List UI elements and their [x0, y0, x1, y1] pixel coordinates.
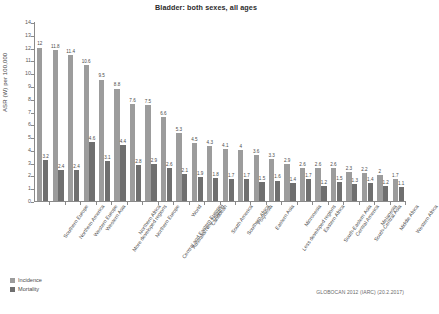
y-tick-mark [31, 113, 34, 114]
y-tick-mark [31, 74, 34, 75]
bar-value-label: 6.6 [160, 112, 166, 117]
bar-incidence: 9.5 [99, 80, 104, 201]
bar-value-label: 2.2 [361, 168, 367, 173]
y-tick-label: 10 [17, 71, 31, 76]
y-tick-mark [31, 202, 34, 203]
bar-incidence: 11.4 [68, 55, 73, 201]
bar-value-label: 2.8 [135, 160, 141, 165]
bar-mortality: 1.2 [383, 186, 388, 201]
bar-value-label: 3.1 [104, 156, 110, 161]
y-axis-label: ASR (W) per 100,000 [2, 53, 8, 112]
legend-swatch-mortality [10, 287, 15, 292]
bar-value-label: 4 [239, 145, 242, 150]
bar-value-label: 2.3 [346, 167, 352, 172]
legend-swatch-incidence [10, 278, 15, 283]
bar-group: 2.61.5 [329, 22, 344, 201]
chart-legend: Incidence Mortality [10, 276, 42, 294]
bar-value-label: 2.4 [58, 165, 64, 170]
bar-value-label: 1.8 [212, 173, 218, 178]
bar-value-label: 1.6 [274, 175, 280, 180]
bar-group: 7.52.9 [143, 22, 158, 201]
bar-mortality: 2.4 [74, 170, 79, 201]
bar-value-label: 3.2 [42, 155, 48, 160]
bar-mortality: 1.7 [229, 179, 234, 201]
y-tick-label: 0 [17, 199, 31, 204]
bar-mortality: 2.4 [58, 170, 63, 201]
bar-group: 3.31.6 [267, 22, 282, 201]
bar-group: 3.61.5 [251, 22, 266, 201]
y-tick-label: 3 [17, 161, 31, 166]
legend-item-incidence: Incidence [10, 276, 42, 285]
legend-label-mortality: Mortality [18, 287, 39, 293]
bar-value-label: 2.6 [315, 163, 321, 168]
bar-incidence: 7.6 [130, 104, 135, 201]
bar-mortality: 4.6 [89, 142, 94, 201]
y-tick-mark [31, 100, 34, 101]
bar-value-label: 1.1 [398, 182, 404, 187]
bar-incidence: 2.6 [331, 168, 336, 201]
bar-value-label: 7.5 [145, 100, 151, 105]
bar-mortality: 1.3 [352, 184, 357, 201]
bar-group: 123.2 [35, 22, 50, 201]
y-tick-label: 4 [17, 148, 31, 153]
y-tick-mark [31, 176, 34, 177]
bar-mortality: 1.4 [290, 183, 295, 201]
y-tick-mark [31, 49, 34, 50]
bar-value-label: 2.6 [299, 163, 305, 168]
bar-value-label: 8.8 [114, 83, 120, 88]
bar-value-label: 1.7 [305, 174, 311, 179]
bar-value-label: 3.6 [253, 150, 259, 155]
bar-value-label: 12 [37, 42, 42, 47]
y-tick-mark [31, 23, 34, 24]
bar-incidence: 8.8 [114, 89, 119, 202]
plot-area: 01234567891011121314 123.211.82.411.42.4… [34, 22, 406, 202]
bar-incidence: 6.6 [161, 117, 166, 201]
bar-value-label: 7.6 [129, 99, 135, 104]
bar-value-label: 1.7 [392, 174, 398, 179]
bar-group: 4.11.7 [221, 22, 236, 201]
bar-value-label: 2.6 [166, 163, 172, 168]
bar-value-label: 2.6 [330, 163, 336, 168]
x-axis-category-labels: Southern EuropeNorthern AmericaWestern E… [34, 204, 406, 266]
y-tick-label: 13 [17, 33, 31, 38]
y-tick-mark [31, 151, 34, 152]
y-tick-mark [31, 61, 34, 62]
bar-value-label: 2.4 [73, 165, 79, 170]
bar-value-label: 2.9 [151, 159, 157, 164]
x-axis-label: Western Africa [416, 204, 439, 235]
bar-value-label: 1.9 [197, 172, 203, 177]
bar-group: 2.61.2 [313, 22, 328, 201]
bar-incidence: 11.8 [53, 50, 58, 201]
bar-value-label: 2.1 [182, 169, 188, 174]
bar-value-label: 1.7 [228, 174, 234, 179]
bar-value-label: 1.2 [321, 181, 327, 186]
bar-value-label: 2.9 [284, 159, 290, 164]
y-tick-mark [31, 138, 34, 139]
bar-value-label: 9.5 [98, 74, 104, 79]
x-axis-label: Eastern Asia [275, 204, 296, 231]
x-axis-label: World [191, 204, 203, 218]
bar-group: 10.64.6 [81, 22, 96, 201]
bar-group: 5.32.1 [174, 22, 189, 201]
bar-value-label: 1.4 [290, 178, 296, 183]
bar-value-label: 1.5 [336, 177, 342, 182]
bar-group: 2.21.4 [360, 22, 375, 201]
bar-value-label: 4.1 [222, 144, 228, 149]
bar-value-label: 11.4 [66, 50, 75, 55]
y-tick-label: 11 [17, 59, 31, 64]
bar-mortality: 1.8 [213, 178, 218, 201]
bar-mortality: 2.1 [182, 174, 187, 201]
bar-mortality: 4.4 [120, 145, 125, 201]
legend-item-mortality: Mortality [10, 285, 42, 294]
bar-value-label: 1.4 [367, 178, 373, 183]
source-attribution: GLOBOCAN 2012 (IARC) (20.2.2017) [316, 289, 404, 295]
bar-incidence: 10.6 [84, 65, 89, 201]
bar-value-label: 4.4 [120, 140, 126, 145]
bar-mortality: 1.6 [275, 181, 280, 201]
bar-mortality: 1.7 [306, 179, 311, 201]
bar-group: 2.91.4 [282, 22, 297, 201]
bar-value-label: 2 [379, 170, 382, 175]
bar-value-label: 1.7 [243, 174, 249, 179]
y-tick-label: 14 [17, 20, 31, 25]
bar-value-label: 4.5 [191, 138, 197, 143]
